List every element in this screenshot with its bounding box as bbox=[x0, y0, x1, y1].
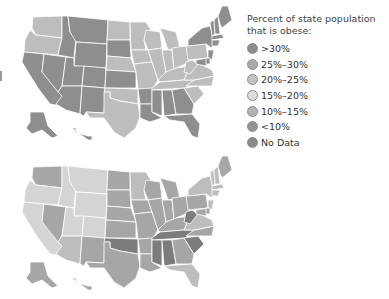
state-nd bbox=[107, 20, 130, 40]
state-ne bbox=[106, 56, 136, 72]
state-me bbox=[218, 6, 232, 28]
state-co bbox=[82, 66, 106, 88]
state-pa bbox=[186, 44, 208, 60]
state-ny bbox=[188, 176, 214, 198]
obesity-map-bottom bbox=[0, 150, 240, 299]
state-az bbox=[56, 86, 82, 114]
state-wi bbox=[144, 180, 162, 200]
state-ms bbox=[152, 240, 162, 266]
state-nm bbox=[80, 86, 105, 116]
legend-items: >30% 25%–30% 20%–25% 15%–20% 10%–15% <10… bbox=[247, 41, 387, 150]
legend-item-10-15: 10%–15% bbox=[247, 103, 387, 119]
state-ak bbox=[26, 112, 58, 138]
state-nm bbox=[80, 236, 105, 266]
legend-item-under-10: <10% bbox=[247, 119, 387, 135]
legend-swatch-icon bbox=[247, 106, 258, 117]
state-ks bbox=[105, 220, 136, 238]
state-wy bbox=[74, 42, 107, 68]
legend-label: No Data bbox=[261, 137, 300, 148]
state-hi bbox=[72, 128, 92, 140]
state-ny bbox=[188, 26, 214, 48]
state-sd bbox=[107, 40, 131, 58]
state-mi bbox=[160, 28, 180, 50]
us-map-top bbox=[0, 0, 240, 150]
state-ne bbox=[106, 206, 136, 222]
legend-item-20-25: 20%–25% bbox=[247, 72, 387, 88]
state-fl bbox=[164, 264, 200, 288]
state-ak bbox=[26, 262, 58, 288]
legend-label: 25%–30% bbox=[261, 59, 308, 70]
legend-label: 20%–25% bbox=[261, 74, 308, 85]
state-sd bbox=[107, 190, 131, 208]
state-fl bbox=[164, 114, 200, 138]
legend-item-over-30: >30% bbox=[247, 41, 387, 57]
state-mi bbox=[160, 178, 180, 200]
legend-item-25-30: 25%–30% bbox=[247, 57, 387, 73]
legend-swatch-icon bbox=[247, 121, 258, 132]
state-pa bbox=[186, 194, 208, 210]
state-ms bbox=[152, 90, 162, 116]
legend-item-15-20: 15%–20% bbox=[247, 88, 387, 104]
state-ct bbox=[212, 40, 220, 46]
state-hi bbox=[72, 278, 92, 290]
legend-swatch-icon bbox=[247, 137, 258, 148]
legend-title: Percent of state population that is obes… bbox=[247, 13, 387, 37]
legend-item-no-data: No Data bbox=[247, 135, 387, 151]
state-az bbox=[56, 236, 82, 264]
state-ar bbox=[138, 238, 152, 254]
state-ct bbox=[212, 190, 220, 196]
state-wi bbox=[144, 30, 162, 50]
legend-label: 10%–15% bbox=[261, 106, 308, 117]
state-de bbox=[206, 208, 210, 214]
state-de bbox=[206, 58, 210, 64]
legend-swatch-icon bbox=[247, 59, 258, 70]
state-co bbox=[82, 216, 106, 238]
legend-swatch-icon bbox=[247, 74, 258, 85]
legend-swatch-icon bbox=[247, 90, 258, 101]
obesity-map-top bbox=[0, 0, 240, 150]
state-ar bbox=[138, 88, 152, 104]
state-wy bbox=[74, 192, 107, 218]
legend-label: <10% bbox=[261, 121, 290, 132]
state-nd bbox=[107, 170, 130, 190]
legend-swatch-icon bbox=[247, 43, 258, 54]
state-ks bbox=[105, 70, 136, 88]
legend-label: 15%–20% bbox=[261, 90, 308, 101]
us-map-bottom bbox=[0, 150, 240, 299]
legend-label: >30% bbox=[261, 43, 290, 54]
legend: Percent of state population that is obes… bbox=[247, 13, 387, 150]
state-me bbox=[218, 156, 232, 178]
